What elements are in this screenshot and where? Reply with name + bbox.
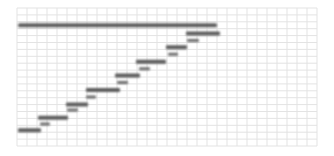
task-bar-3[interactable] (66, 103, 88, 107)
task-bar-4[interactable] (86, 88, 120, 92)
dependency-link-6 (168, 53, 178, 56)
task-bar-2[interactable] (38, 116, 68, 120)
dependency-link-5 (139, 67, 150, 70)
chart-grid (17, 8, 317, 146)
dependency-link-2 (67, 109, 78, 112)
task-bar-7[interactable] (166, 45, 187, 49)
summary-bar[interactable] (18, 23, 217, 27)
chart-bars (18, 23, 220, 132)
dependency-link-3 (86, 96, 96, 99)
gantt-chart (0, 0, 334, 156)
task-bar-6[interactable] (136, 60, 166, 64)
dependency-link-4 (117, 81, 128, 84)
dependency-link-7 (187, 39, 199, 42)
task-bar-1[interactable] (18, 128, 41, 132)
task-bar-5[interactable] (115, 74, 140, 78)
dependency-link-1 (40, 122, 50, 125)
task-bar-8[interactable] (186, 32, 220, 36)
